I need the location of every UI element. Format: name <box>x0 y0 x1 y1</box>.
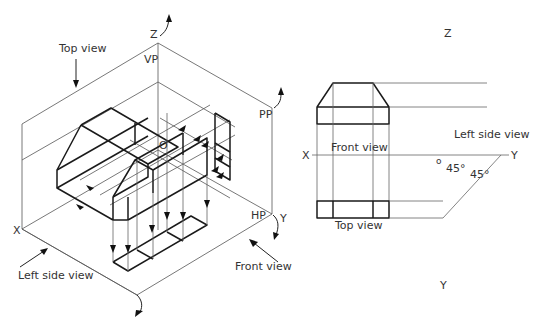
pp-label: PP <box>259 108 273 121</box>
origin-label: O <box>159 139 168 152</box>
hp-label: HP <box>251 209 266 222</box>
front-view-arrow-icon <box>249 239 258 247</box>
arrow-right-icon <box>86 185 94 191</box>
ortho-top-view-label: Top view <box>334 219 382 232</box>
top-view-arrow-icon <box>73 80 79 88</box>
left-side-view-arrow-icon <box>40 248 48 255</box>
isometric-labels: Z VP PP HP Y X O Top view Left side view… <box>13 14 292 317</box>
ortho-left-side-view-label: Left side view <box>454 128 530 141</box>
vp-label: VP <box>144 53 159 66</box>
pp-inner-line <box>158 82 235 127</box>
rotation-arrow-y <box>273 215 278 235</box>
object-top-edge <box>81 108 178 164</box>
vp-inner-line <box>22 82 158 160</box>
diagram-canvas: Z VP PP HP Y X O Top view Left side view… <box>0 0 536 331</box>
object-slope <box>113 160 153 197</box>
hp-plane-outline <box>22 214 272 295</box>
rotation-arrow-z-icon <box>166 14 172 22</box>
left-side-view-leader <box>20 251 44 267</box>
ortho-z-axis-label: Z <box>444 27 452 40</box>
rotation-arrow-bottom-icon <box>135 310 143 317</box>
x-axis-label: X <box>13 224 21 237</box>
arrow-left-icon <box>178 125 186 132</box>
isometric-view: Z VP PP HP Y X O Top view Left side view… <box>13 14 292 317</box>
front-view-drawing <box>317 83 487 124</box>
projection-arrows <box>76 125 224 253</box>
side-view-edge <box>215 143 230 152</box>
top-view-edge <box>167 232 183 241</box>
arrow-down-icon <box>204 200 210 208</box>
rotation-arrow-bottom <box>137 295 142 312</box>
ortho-front-view-label: Front view <box>331 141 388 154</box>
ortho-x-axis-label: X <box>302 149 310 162</box>
rotation-arrow-y-icon <box>273 232 279 240</box>
top-view-drawing <box>317 201 443 218</box>
top-view-outline <box>113 216 207 271</box>
y-axis-label: Y <box>279 212 287 225</box>
ortho-y-axis-label-right: Y <box>510 149 518 162</box>
front-view-outline <box>317 83 389 124</box>
angle-label-2: 45° <box>470 168 490 181</box>
left-side-view-label: Left side view <box>18 269 94 282</box>
z-axis-label: Z <box>150 28 158 41</box>
ortho-y-axis-label-bottom: Y <box>439 279 447 292</box>
arrow-down-icon <box>110 245 116 253</box>
top-view-outline <box>317 201 389 218</box>
orthographic-view: Z X Y o 45° 45° Front view Top view <box>302 27 530 292</box>
projection-diagram: Z VP PP HP Y X O Top view Left side view… <box>0 0 536 331</box>
arrow-down-icon <box>149 225 155 233</box>
isometric-object <box>57 108 207 220</box>
rotation-arrow-pp-icon <box>278 87 284 95</box>
ortho-origin-label: o <box>436 156 442 166</box>
angle-label-1: 45° <box>446 162 466 175</box>
arrow-right-icon <box>76 204 84 210</box>
arrow-left-icon <box>201 141 209 148</box>
front-view-label: Front view <box>235 260 292 273</box>
top-view-edge <box>137 250 153 259</box>
top-view-label: Top view <box>58 42 106 55</box>
arrow-down-icon <box>164 212 170 220</box>
